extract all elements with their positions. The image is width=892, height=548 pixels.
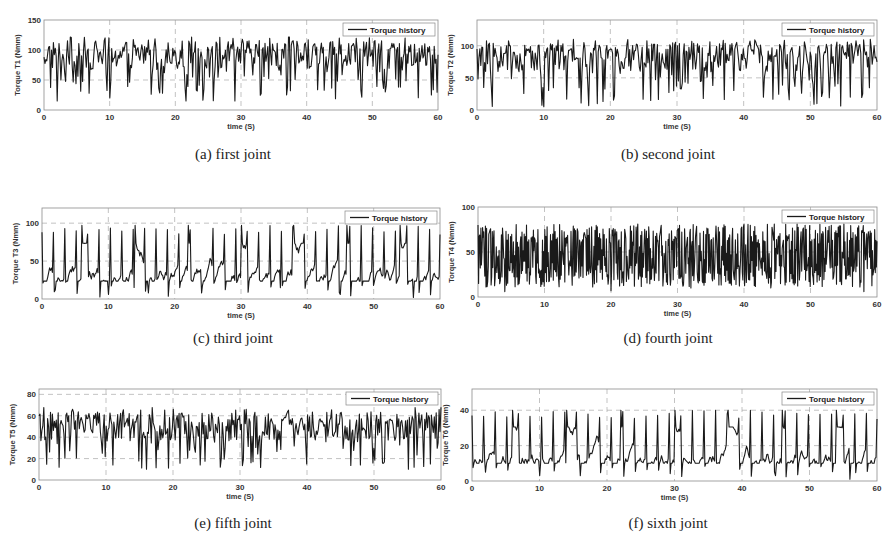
- caption-a: (a) first joint: [195, 146, 271, 163]
- y-tick-label: 40: [460, 406, 469, 415]
- caption-b: (b) second joint: [621, 146, 715, 163]
- x-tick-label: 0: [470, 484, 475, 493]
- x-tick-label: 60: [873, 484, 882, 493]
- chart-f: 010203040506002040time (S)Torque T6 (Nmm…: [0, 0, 892, 548]
- x-tick-label: 10: [535, 484, 544, 493]
- legend: Torque history: [782, 392, 874, 405]
- caption-d: (d) fourth joint: [623, 330, 712, 347]
- x-tick-label: 50: [805, 484, 814, 493]
- caption-f: (f) sixth joint: [628, 515, 707, 532]
- caption-c: (c) third joint: [193, 330, 273, 347]
- legend-label: Torque history: [809, 395, 865, 404]
- caption-e: (e) fifth joint: [194, 515, 271, 532]
- y-tick-label: 20: [460, 442, 469, 451]
- y-axis-label: Torque T6 (Nmm): [441, 404, 450, 466]
- x-tick-label: 30: [670, 484, 679, 493]
- x-tick-label: 40: [738, 484, 747, 493]
- x-tick-label: 20: [603, 484, 612, 493]
- x-axis-label: time (S): [661, 493, 689, 502]
- y-tick-label: 0: [465, 477, 470, 486]
